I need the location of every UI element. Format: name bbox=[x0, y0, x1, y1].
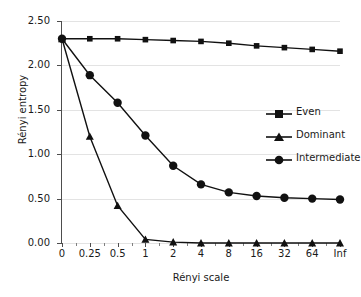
data-point-marker bbox=[170, 38, 176, 44]
series-even bbox=[59, 36, 343, 54]
data-point-marker bbox=[115, 36, 121, 42]
data-point-marker bbox=[226, 40, 232, 46]
data-point-marker bbox=[169, 162, 177, 170]
data-point-marker bbox=[309, 47, 315, 53]
square-marker-icon bbox=[266, 109, 292, 119]
legend-label-even: Even bbox=[296, 106, 321, 118]
data-point-marker bbox=[58, 35, 66, 43]
data-point-marker bbox=[308, 194, 316, 202]
series-intermediate bbox=[58, 35, 344, 204]
data-point-marker bbox=[141, 131, 149, 139]
data-point-marker bbox=[254, 43, 260, 49]
data-point-marker bbox=[225, 188, 233, 196]
data-point-marker bbox=[280, 194, 288, 202]
data-point-marker bbox=[282, 45, 288, 51]
data-point-marker bbox=[198, 39, 204, 45]
data-point-marker bbox=[252, 192, 260, 200]
data-point-marker bbox=[337, 48, 343, 54]
data-point-marker bbox=[336, 195, 344, 203]
circle-marker-icon bbox=[266, 155, 292, 165]
triangle-marker-icon bbox=[266, 132, 292, 142]
series-line bbox=[62, 39, 340, 200]
data-point-marker bbox=[86, 132, 94, 139]
legend-label-dominant: Dominant bbox=[296, 129, 345, 141]
data-point-marker bbox=[87, 36, 93, 42]
legend-label-intermediate: Intermediate bbox=[296, 152, 361, 164]
data-point-marker bbox=[143, 37, 149, 43]
data-point-marker bbox=[113, 98, 121, 106]
data-point-marker bbox=[197, 180, 205, 188]
data-point-marker bbox=[114, 202, 122, 209]
data-point-marker bbox=[86, 71, 94, 79]
